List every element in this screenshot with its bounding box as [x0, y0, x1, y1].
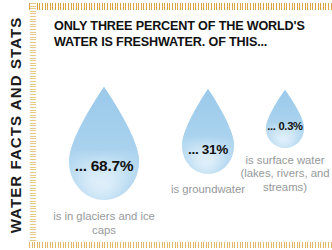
water-drop-icon [61, 85, 147, 203]
stat-caption-surface-water: is surface water (lakes, rivers, and str… [240, 154, 330, 194]
infographic-page: WATER FACTS AND STATS ONLY THREE PERCENT… [0, 0, 332, 250]
frame-top-border [29, 3, 332, 10]
water-drop-icon [176, 87, 240, 177]
sidebar-banner: WATER FACTS AND STATS [0, 0, 30, 250]
stat-caption-glaciers: is in glaciers and ice caps [48, 210, 160, 237]
stat-value-glaciers: ... 68.7% [48, 157, 160, 175]
infographic-content: ONLY THREE PERCENT OF THE WORLD'S WATER … [40, 10, 332, 242]
sidebar-title: WATER FACTS AND STATS [7, 17, 24, 234]
stat-item-glaciers: ... 68.7% is in glaciers and ice caps [48, 85, 160, 237]
frame-bottom-border [29, 242, 332, 248]
page-title: ONLY THREE PERCENT OF THE WORLD'S WATER … [54, 18, 326, 50]
water-drop-icon [262, 88, 308, 150]
stat-item-surface-water: ... 0.3% is surface water (lakes, rivers… [240, 88, 330, 194]
stat-value-surface-water: ... 0.3% [240, 120, 330, 132]
frame-left-border [30, 3, 36, 247]
